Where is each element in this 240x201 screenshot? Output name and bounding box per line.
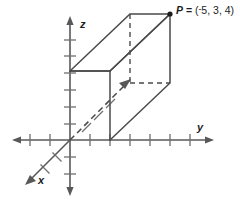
box-diagonal-edge-to-p [110, 14, 170, 71]
axes-group [12, 16, 214, 196]
box-right-face-edges [110, 14, 170, 140]
x-axis-back-arrowhead [119, 79, 131, 89]
z-axis [64, 16, 76, 196]
figure-3d-coordinate-plot: z y x P = (-5, 3, 4) [0, 0, 240, 201]
x-axis-line-back-dashed [70, 86, 124, 140]
z-axis-arrowhead [66, 16, 73, 25]
y-axis-negative-arrowhead [12, 136, 21, 143]
z-axis-negative-arrowhead [66, 187, 73, 196]
x-axis-label: x [37, 174, 45, 186]
y-axis-arrowhead [205, 136, 214, 143]
y-axis [12, 134, 214, 146]
point-p-close-paren: ) [231, 4, 235, 16]
point-p-marker [167, 11, 172, 16]
coordinate-diagram-svg: z y x [0, 0, 240, 201]
point-p-name: P [176, 4, 183, 16]
x-axis-ticks [41, 153, 62, 174]
z-axis-label: z [79, 18, 86, 30]
x-axis [25, 79, 131, 185]
point-p-label: P = (-5, 3, 4) [176, 5, 234, 16]
box-group [70, 11, 173, 140]
y-axis-label: y [196, 121, 204, 133]
x-axis-line-front [28, 140, 70, 182]
